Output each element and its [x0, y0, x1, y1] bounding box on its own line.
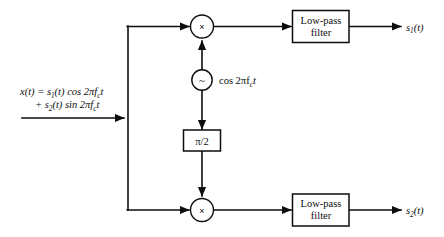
output-s2-tail: (t) [414, 205, 424, 217]
input-line1-tail: t [100, 86, 104, 97]
low-pass-filter-top-line2: filter [311, 27, 332, 38]
carrier-label-lead: cos 2πf [219, 75, 250, 86]
multiplier-bottom-symbol: × [199, 206, 204, 216]
input-line1-rest: (t) cos 2πf [55, 86, 100, 98]
carrier-label: cos 2πfct [219, 75, 257, 89]
low-pass-filter-bottom-line2: filter [311, 210, 332, 221]
output-s1-label: s1(t) [406, 22, 424, 36]
quadrature-demodulator-diagram: × × ~ cos 2πfct π/2 Low-pass filter Low-… [0, 0, 444, 237]
block-diagram-canvas: × × ~ cos 2πfct π/2 Low-pass filter Low-… [0, 0, 444, 237]
output-s1-tail: (t) [414, 22, 424, 34]
carrier-label-tail: t [253, 75, 257, 86]
low-pass-filter-bottom-line1: Low-pass [301, 198, 342, 209]
input-line1-lead: x(t) = s [19, 86, 51, 98]
input-line2-lead: + s [35, 99, 49, 110]
input-line2-rest: (t) sin 2πf [52, 99, 95, 111]
phase-shift-label: π/2 [195, 136, 208, 147]
low-pass-filter-top-line1: Low-pass [301, 15, 342, 26]
output-s2-label: s2(t) [406, 205, 424, 219]
multiplier-top-symbol: × [199, 22, 204, 32]
input-signal-label-line2: + s2(t) sin 2πfct [35, 99, 100, 113]
oscillator-tilde-icon: ~ [199, 74, 205, 86]
input-signal-label-line1: x(t) = s1(t) cos 2πfct [19, 86, 104, 100]
input-line2-tail: t [96, 99, 100, 110]
